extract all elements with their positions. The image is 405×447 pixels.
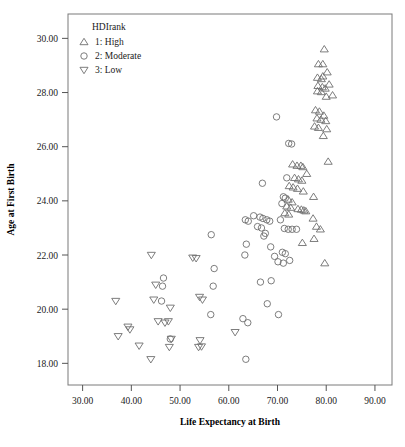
data-point — [243, 356, 249, 362]
legend-title: HDIrank — [92, 22, 126, 32]
chart-canvas: 30.0040.0050.0060.0070.0080.0090.00Life … — [0, 0, 405, 447]
data-point — [135, 343, 143, 349]
data-point — [284, 175, 290, 181]
legend-entry-label: 1: High — [95, 37, 124, 47]
x-tick-label: 40.00 — [121, 396, 143, 406]
x-tick-label: 90.00 — [364, 396, 386, 406]
x-tick-label: 70.00 — [267, 396, 289, 406]
data-point — [166, 305, 174, 311]
y-tick-label: 22.00 — [37, 251, 59, 261]
series-2 — [158, 114, 299, 363]
y-tick-label: 28.00 — [37, 88, 59, 98]
legend: HDIrank1: High2: Moderate3: Low — [80, 22, 141, 75]
y-tick-label: 18.00 — [37, 359, 59, 369]
data-point — [250, 213, 256, 219]
data-point — [277, 217, 283, 223]
x-axis-title: Life Expectancy at Birth — [180, 417, 281, 427]
data-point — [165, 344, 173, 350]
y-tick-label: 26.00 — [37, 142, 59, 152]
data-point — [196, 294, 204, 300]
data-point — [320, 45, 328, 51]
data-point — [309, 215, 317, 221]
data-point — [319, 132, 327, 138]
x-tick-label: 30.00 — [72, 396, 94, 406]
data-point — [112, 298, 120, 304]
data-point — [299, 188, 307, 194]
x-tick-label: 80.00 — [316, 396, 338, 406]
data-point — [231, 330, 239, 336]
y-tick-label: 20.00 — [37, 305, 59, 315]
data-point — [210, 283, 216, 289]
data-point — [312, 223, 320, 229]
y-tick-label: 24.00 — [37, 196, 59, 206]
data-point — [321, 259, 329, 265]
data-point — [273, 114, 279, 120]
legend-marker-1 — [80, 38, 88, 44]
data-point — [152, 282, 160, 288]
data-point — [159, 283, 165, 289]
data-point — [329, 92, 337, 98]
legend-entry-label: 2: Moderate — [95, 51, 141, 61]
data-point — [267, 244, 273, 250]
data-point — [286, 257, 292, 263]
data-point — [147, 252, 155, 258]
x-axis: 30.0040.0050.0060.0070.0080.0090.00 — [72, 385, 386, 406]
data-point — [310, 193, 318, 199]
data-point — [150, 297, 158, 303]
data-point — [161, 320, 169, 326]
data-point — [323, 69, 331, 75]
data-point — [303, 170, 311, 176]
data-point — [243, 241, 249, 247]
data-point — [254, 223, 260, 229]
data-point — [211, 265, 217, 271]
legend-marker-3 — [80, 67, 88, 73]
data-point — [323, 125, 331, 131]
data-point — [264, 301, 270, 307]
data-point — [257, 279, 263, 285]
data-point — [310, 235, 318, 241]
data-point — [208, 311, 214, 317]
x-tick-label: 60.00 — [218, 396, 240, 406]
y-tick-label: 30.00 — [37, 34, 59, 44]
data-point — [158, 298, 164, 304]
data-point — [147, 357, 155, 363]
data-point — [208, 231, 214, 237]
legend-entry-label: 3: Low — [95, 65, 122, 75]
data-point — [320, 112, 328, 118]
y-axis-title: Age at First Birth — [6, 163, 16, 236]
data-point — [114, 334, 122, 340]
legend-marker-2 — [81, 53, 87, 59]
scatter-plot-figure: 30.0040.0050.0060.0070.0080.0090.00Life … — [0, 0, 405, 447]
data-point — [242, 252, 248, 258]
data-point — [268, 278, 274, 284]
data-point — [324, 158, 332, 164]
data-point — [259, 180, 265, 186]
data-point — [275, 311, 281, 317]
data-point — [298, 239, 306, 245]
data-point — [293, 226, 299, 232]
y-axis: 18.0020.0022.0024.0026.0028.0030.00 — [37, 34, 68, 369]
data-point — [245, 319, 251, 325]
data-point — [196, 338, 204, 344]
series-3 — [112, 252, 239, 363]
data-point — [160, 275, 166, 281]
x-tick-label: 50.00 — [169, 396, 191, 406]
data-point — [279, 200, 285, 206]
